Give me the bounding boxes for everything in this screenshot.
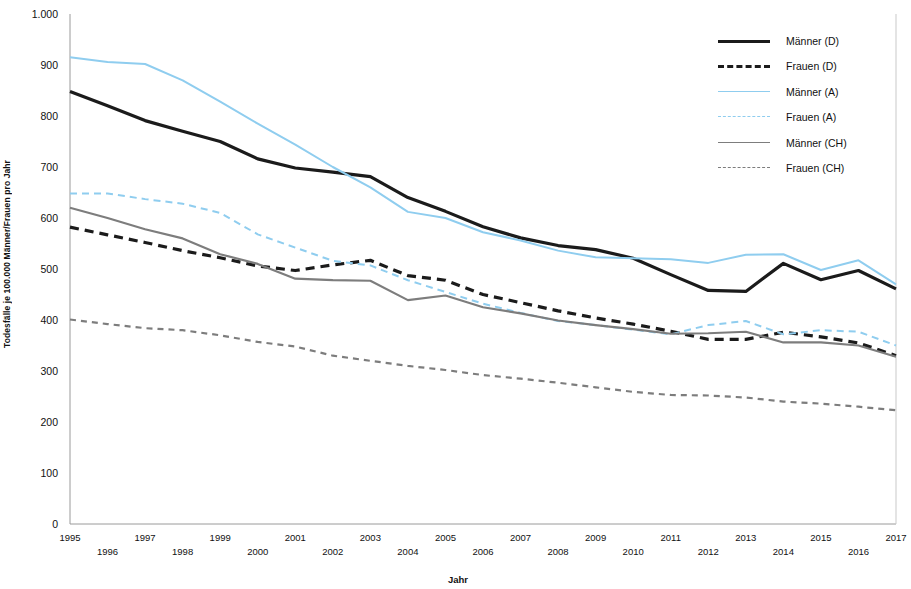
x-tick-label: 2012 bbox=[698, 546, 719, 557]
x-tick-label: 1996 bbox=[97, 546, 118, 557]
y-tick-label: 200 bbox=[16, 416, 58, 428]
legend-item[interactable]: Frauen (CH) bbox=[718, 156, 903, 182]
x-tick-label: 1998 bbox=[172, 546, 193, 557]
x-tick-label: 2015 bbox=[810, 532, 831, 543]
legend-label: Männer (D) bbox=[786, 35, 839, 47]
series-line bbox=[70, 194, 896, 346]
x-axis-title: Jahr bbox=[448, 574, 468, 585]
y-tick-label: 300 bbox=[16, 365, 58, 377]
series-line bbox=[70, 208, 896, 357]
x-tick-label: 2013 bbox=[735, 532, 756, 543]
y-tick-label: 1.000 bbox=[16, 8, 58, 20]
x-tick-label: 2016 bbox=[848, 546, 869, 557]
y-tick-label: 400 bbox=[16, 314, 58, 326]
legend-item[interactable]: Frauen (A) bbox=[718, 105, 903, 131]
x-tick-label: 2000 bbox=[247, 546, 268, 557]
y-tick-label: 800 bbox=[16, 110, 58, 122]
chart-legend: Männer (D)Frauen (D)Männer (A)Frauen (A)… bbox=[718, 28, 903, 181]
x-tick-label: 1997 bbox=[135, 532, 156, 543]
x-tick-label: 2010 bbox=[623, 546, 644, 557]
x-tick-label: 2007 bbox=[510, 532, 531, 543]
legend-label: Frauen (A) bbox=[786, 111, 836, 123]
x-tick-label: 2014 bbox=[773, 546, 794, 557]
x-tick-label: 1999 bbox=[210, 532, 231, 543]
y-tick-label: 0 bbox=[16, 518, 58, 530]
legend-item[interactable]: Männer (A) bbox=[718, 79, 903, 105]
y-tick-label: 100 bbox=[16, 467, 58, 479]
legend-line-icon bbox=[718, 138, 770, 148]
legend-item[interactable]: Männer (CH) bbox=[718, 130, 903, 156]
x-tick-label: 2002 bbox=[322, 546, 343, 557]
legend-label: Männer (A) bbox=[786, 86, 839, 98]
x-tick-label: 2009 bbox=[585, 532, 606, 543]
legend-line-icon bbox=[718, 163, 770, 173]
x-tick-label: 1995 bbox=[59, 532, 80, 543]
y-tick-label: 600 bbox=[16, 212, 58, 224]
legend-line-icon bbox=[718, 87, 770, 97]
y-tick-label: 900 bbox=[16, 59, 58, 71]
legend-item[interactable]: Männer (D) bbox=[718, 28, 903, 54]
legend-label: Frauen (D) bbox=[786, 60, 837, 72]
legend-label: Männer (CH) bbox=[786, 137, 847, 149]
x-tick-label: 2006 bbox=[472, 546, 493, 557]
legend-item[interactable]: Frauen (D) bbox=[718, 54, 903, 80]
line-chart: Todesfälle je 100.000 Männer/Frauen pro … bbox=[0, 0, 911, 589]
x-tick-label: 2004 bbox=[397, 546, 418, 557]
x-tick-label: 2011 bbox=[661, 532, 681, 543]
x-tick-label: 2001 bbox=[285, 532, 306, 543]
x-tick-label: 2005 bbox=[435, 532, 456, 543]
series-line bbox=[70, 227, 896, 356]
y-axis-ticks: 1.0009008007006005004003002001000 bbox=[8, 0, 58, 589]
legend-line-icon bbox=[718, 61, 770, 71]
x-tick-label: 2003 bbox=[360, 532, 381, 543]
y-tick-label: 500 bbox=[16, 263, 58, 275]
x-tick-label: 2008 bbox=[548, 546, 569, 557]
legend-line-icon bbox=[718, 36, 770, 46]
series-line bbox=[70, 319, 896, 410]
legend-label: Frauen (CH) bbox=[786, 162, 844, 174]
x-tick-label: 2017 bbox=[885, 532, 906, 543]
y-tick-label: 700 bbox=[16, 161, 58, 173]
legend-line-icon bbox=[718, 112, 770, 122]
